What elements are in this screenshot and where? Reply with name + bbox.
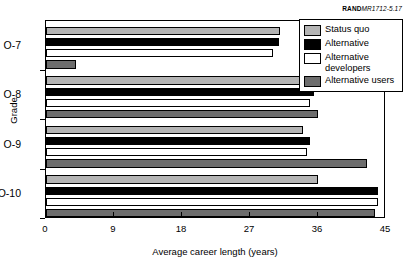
bar <box>46 27 280 35</box>
bar <box>46 175 318 183</box>
x-axis-tick-label: 0 <box>42 223 47 234</box>
bar <box>46 76 314 84</box>
bar <box>46 49 273 57</box>
legend-item: Alternative <box>304 38 399 50</box>
bar <box>46 88 314 96</box>
legend-item: Status quo <box>304 24 399 36</box>
legend-label: Alternative developers <box>325 52 399 73</box>
bar <box>46 148 307 156</box>
legend-swatch-icon <box>304 25 321 36</box>
legend-label: Alternative <box>325 38 369 49</box>
x-axis-title: Average career length (years) <box>45 246 385 257</box>
bar <box>46 60 76 68</box>
x-axis-tick <box>181 212 182 218</box>
legend-swatch-icon <box>304 39 321 50</box>
bar <box>46 126 303 134</box>
bar <box>46 187 378 195</box>
y-axis-tick <box>40 70 45 71</box>
legend: Status quoAlternativeAlternative develop… <box>299 19 403 92</box>
bar <box>46 159 367 167</box>
figure: RANDMR1712-5.17 Grade Average career len… <box>0 0 411 267</box>
y-axis-tick <box>40 218 45 219</box>
y-axis-tick-label: O-8 <box>3 88 21 100</box>
bar-group <box>46 120 384 170</box>
y-axis-tick <box>40 169 45 170</box>
bar-group <box>46 170 384 220</box>
y-axis-tick-label: O-7 <box>3 39 21 51</box>
x-axis-tick-label: 45 <box>380 223 391 234</box>
bar <box>46 209 375 217</box>
bar <box>46 99 310 107</box>
y-axis-tick-label: O-10 <box>0 187 21 199</box>
legend-item: Alternative developers <box>304 52 399 73</box>
x-axis-tick-label: 9 <box>110 223 115 234</box>
credit-brand: RAND <box>342 5 361 12</box>
bar <box>46 110 318 118</box>
bar <box>46 38 279 46</box>
legend-label: Alternative users <box>325 75 394 86</box>
x-axis-tick <box>249 212 250 218</box>
y-axis-tick <box>40 119 45 120</box>
x-axis-tick-label: 27 <box>244 223 255 234</box>
x-axis-tick <box>113 212 114 218</box>
legend-item: Alternative users <box>304 75 399 87</box>
x-axis-tick <box>317 212 318 218</box>
x-axis-tick-label: 18 <box>176 223 187 234</box>
bar <box>46 137 310 145</box>
bar <box>46 198 378 206</box>
x-axis-tick-label: 36 <box>312 223 323 234</box>
legend-swatch-icon <box>304 53 321 64</box>
source-credit: RANDMR1712-5.17 <box>342 5 402 12</box>
y-axis-tick-label: O-9 <box>3 138 21 150</box>
credit-reference: MR1712-5.17 <box>362 5 402 12</box>
legend-swatch-icon <box>304 76 321 87</box>
legend-label: Status quo <box>325 24 369 35</box>
